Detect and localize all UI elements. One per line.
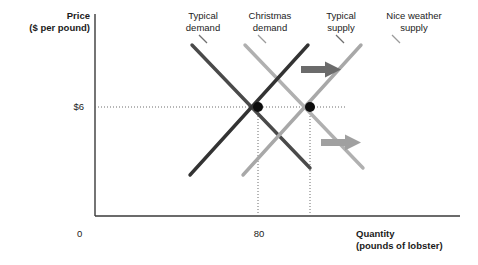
leader-typical-supply <box>336 35 344 43</box>
y-axis-title-line1: Price <box>29 10 90 22</box>
curve-label-typical-supply-line2: supply <box>313 22 369 34</box>
chart-canvas <box>0 0 478 265</box>
curve-label-typical-demand: Typical demand <box>175 10 231 33</box>
demand-shift-arrow-icon <box>321 135 361 151</box>
x-axis-title-line1: Quantity <box>356 228 443 240</box>
curve-label-christmas-demand: Christmas demand <box>237 10 303 33</box>
leader-typical-demand <box>199 35 207 43</box>
y-axis-tick-label-6: $6 <box>66 101 84 113</box>
y-axis-title: Price ($ per pound) <box>29 10 90 33</box>
curve-label-christmas-demand-line2: demand <box>237 22 303 34</box>
equilibrium-point-typical <box>253 102 263 112</box>
curve-label-christmas-demand-line1: Christmas <box>237 10 303 22</box>
x-axis-title-line2: (pounds of lobster) <box>356 240 443 252</box>
curve-label-typical-demand-line2: demand <box>175 22 231 34</box>
y-axis-title-line2: ($ per pound) <box>29 22 90 34</box>
curve-label-nice-weather-supply: Nice weather supply <box>372 10 456 33</box>
curve-label-nice-weather-supply-line2: supply <box>372 22 456 34</box>
origin-label: 0 <box>77 228 82 240</box>
equilibrium-point-shifted <box>305 102 315 112</box>
supply-demand-figure: Price ($ per pound) Quantity (pounds of … <box>0 0 478 265</box>
curve-label-typical-demand-line1: Typical <box>175 10 231 22</box>
leader-nice-weather-supply <box>392 35 400 43</box>
curve-label-nice-weather-supply-line1: Nice weather <box>372 10 456 22</box>
x-axis-tick-label-80: 80 <box>248 228 270 240</box>
typical-supply-curve <box>190 45 308 175</box>
curve-label-typical-supply-line1: Typical <box>313 10 369 22</box>
x-axis-title: Quantity (pounds of lobster) <box>356 228 443 251</box>
curve-label-typical-supply: Typical supply <box>313 10 369 33</box>
leader-christmas-demand <box>258 35 266 43</box>
